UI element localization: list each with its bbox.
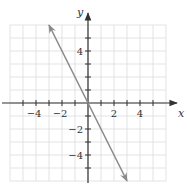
y-axis-label: y — [76, 6, 84, 19]
x-tick-label: 2 — [111, 108, 117, 119]
x-tick-label: 4 — [137, 108, 143, 119]
y-tick-label: −2 — [68, 124, 83, 135]
axes: −4−2244−2−4 x y — [2, 6, 185, 183]
coordinate-plane: −4−2244−2−4 x y — [0, 0, 187, 194]
y-tick-label: 4 — [77, 46, 83, 57]
x-tick-label: −2 — [53, 108, 68, 119]
x-tick-label: −4 — [27, 108, 42, 119]
x-axis-label: x — [178, 107, 185, 120]
y-tick-label: −4 — [68, 150, 83, 161]
